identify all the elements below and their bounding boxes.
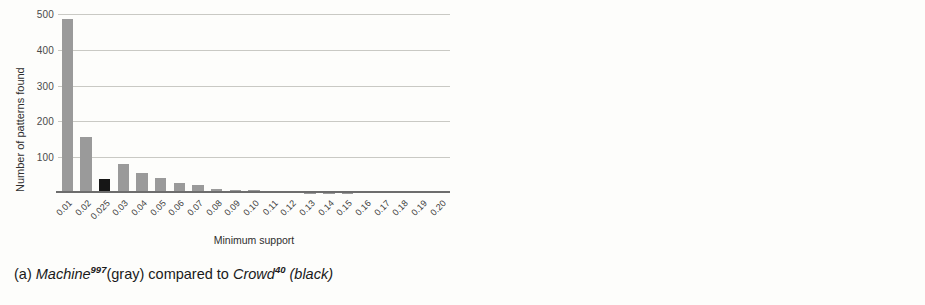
x-tick-cell: 0.06 (170, 196, 189, 232)
x-axis-tick-label: 0.19 (409, 198, 429, 218)
bar-cell[interactable] (394, 14, 413, 193)
figure-container: Number of patterns found 500400300200100… (0, 0, 925, 305)
x-axis-line-a (56, 191, 450, 193)
bar-cell[interactable] (282, 14, 301, 193)
caption-a-black-series: Crowd (233, 266, 275, 282)
bar-cell[interactable] (133, 14, 152, 193)
x-tick-cell: 0.09 (226, 196, 245, 232)
bar-cell[interactable] (301, 14, 320, 193)
bar-cell[interactable] (431, 14, 450, 193)
x-axis-tick-label: 0.14 (316, 198, 336, 218)
caption-a-suffix: (black) (289, 266, 333, 282)
x-axis-title-a: Minimum support (58, 234, 450, 246)
x-tick-cell: 0.11 (263, 196, 282, 232)
caption-a-gray-series: Machine (36, 266, 91, 282)
bar-cell[interactable] (58, 14, 77, 193)
bar-cell[interactable] (77, 14, 96, 193)
x-tick-cell: 0.18 (394, 196, 413, 232)
caption-a-gray-superscript: 997 (91, 264, 107, 275)
x-tick-cell: 0.14 (319, 196, 338, 232)
plot-area-a (58, 14, 450, 193)
x-axis-tick-label: 0.08 (204, 198, 224, 218)
x-axis-tick-label: 0.10 (241, 198, 261, 218)
x-tick-cell: 0.025 (95, 196, 114, 232)
bar-cell[interactable] (226, 14, 245, 193)
x-tick-cell: 0.12 (282, 196, 301, 232)
x-axis-tick-label: 0.06 (167, 198, 187, 218)
bar-cell[interactable] (263, 14, 282, 193)
x-axis-tick-label: 0.13 (297, 198, 317, 218)
x-tick-cell: 0.13 (301, 196, 320, 232)
bar-cell[interactable] (245, 14, 264, 193)
x-axis-tick-label: 0.07 (185, 198, 205, 218)
x-axis-tick-label: 0.05 (148, 198, 168, 218)
bar[interactable] (80, 137, 92, 193)
bar-cell[interactable] (95, 14, 114, 193)
bar-cell[interactable] (207, 14, 226, 193)
bar[interactable] (136, 173, 148, 193)
x-axis-tick-label: 0.04 (129, 198, 149, 218)
bar-cell[interactable] (319, 14, 338, 193)
x-tick-cell: 0.17 (375, 196, 394, 232)
bar-cell[interactable] (189, 14, 208, 193)
bar-series-a (58, 14, 450, 193)
x-axis-tick-label: 0.12 (279, 198, 299, 218)
x-axis-tick-label: 0.16 (353, 198, 373, 218)
x-axis-tick-label: 0.15 (335, 198, 355, 218)
x-tick-cell: 0.10 (245, 196, 264, 232)
x-axis-tick-label: 0.18 (391, 198, 411, 218)
x-tick-cell: 0.16 (357, 196, 376, 232)
x-axis-tick-label: 0.11 (261, 198, 280, 217)
bar[interactable] (118, 164, 130, 193)
x-tick-cell: 0.08 (207, 196, 226, 232)
bar-cell[interactable] (413, 14, 432, 193)
caption-a-mid: (gray) compared to (106, 266, 229, 282)
y-axis-tick-label: 300 (37, 80, 54, 91)
x-tick-cell: 0.07 (189, 196, 208, 232)
caption-a-black-superscript: 40 (275, 264, 286, 275)
x-tick-cell: 0.19 (413, 196, 432, 232)
x-axis-tick-label: 0.17 (372, 198, 392, 218)
bar[interactable] (62, 19, 74, 193)
bar-cell[interactable] (151, 14, 170, 193)
x-tick-cell: 0.20 (431, 196, 450, 232)
chart-panel-a: Number of patterns found 500400300200100… (0, 0, 462, 305)
y-axis-tick-label: 400 (37, 44, 54, 55)
x-tick-cell: 0.05 (151, 196, 170, 232)
caption-a: (a) Machine997(gray) compared to Crowd40… (14, 264, 333, 282)
x-tick-cell: 0.15 (338, 196, 357, 232)
bar-cell[interactable] (375, 14, 394, 193)
x-axis-ticks-a: 0.010.020.0250.030.040.050.060.070.080.0… (58, 196, 450, 232)
bar-cell[interactable] (170, 14, 189, 193)
bar-cell[interactable] (114, 14, 133, 193)
y-axis-tick-label: 500 (37, 9, 54, 20)
x-tick-cell: 0.01 (58, 196, 77, 232)
y-axis-tick-label: 200 (37, 116, 54, 127)
bar-cell[interactable] (357, 14, 376, 193)
chart-panel-b: Number of patterns found 5040302010 0.02… (462, 0, 925, 305)
x-axis-tick-label: 0.03 (111, 198, 131, 218)
bar-cell[interactable] (338, 14, 357, 193)
x-axis-tick-label: 0.20 (428, 198, 448, 218)
x-tick-cell: 0.04 (133, 196, 152, 232)
x-axis-tick-label: 0.01 (55, 198, 75, 218)
caption-a-prefix: (a) (14, 266, 32, 282)
y-axis-ticks-a: 500400300200100 (22, 14, 54, 193)
y-axis-tick-label: 100 (37, 152, 54, 163)
x-tick-cell: 0.03 (114, 196, 133, 232)
x-axis-tick-label: 0.09 (223, 198, 243, 218)
